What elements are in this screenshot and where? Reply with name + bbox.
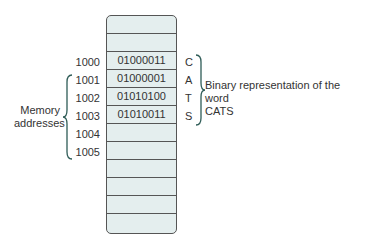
memory-cell [107,178,176,196]
memory-addresses-label: Memory addresses [14,104,60,130]
memory-cell [107,34,176,52]
binary-representation-label: Binary representation of the word CATS [205,79,365,118]
memory-cell [107,160,176,178]
character-label: A [185,74,192,86]
memory-column: 01000011 01000001 01010100 01010011 [106,15,177,234]
memory-addresses-line1: Memory [14,104,60,117]
address-label: 1000 [50,56,100,68]
address-label: 1002 [50,92,100,104]
address-label: 1001 [50,74,100,86]
address-label: 1005 [50,146,100,158]
binary-representation-line1: Binary representation of the word [205,79,365,105]
character-label: S [185,110,192,122]
character-label: T [185,92,192,104]
memory-cell: 01000011 [107,52,176,70]
memory-cell: 01010011 [107,106,176,124]
memory-cell [107,214,176,232]
memory-cell: 01010100 [107,88,176,106]
memory-cell [107,142,176,160]
memory-cell [107,124,176,142]
character-label: C [185,56,193,68]
memory-cell: 01000001 [107,70,176,88]
memory-addresses-line2: addresses [14,117,60,130]
memory-cell [107,16,176,34]
memory-cell [107,196,176,214]
binary-representation-line2: CATS [205,105,365,118]
